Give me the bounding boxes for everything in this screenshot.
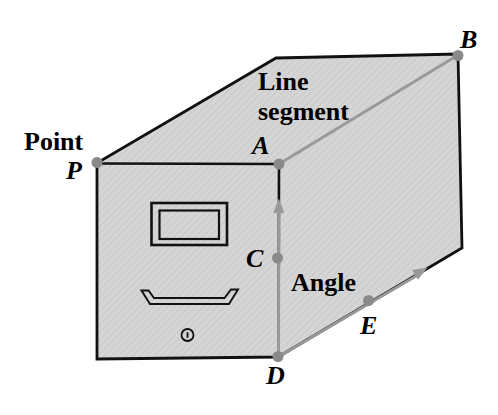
cabinet-diagram (0, 0, 498, 415)
point-dot-c (272, 253, 283, 264)
front-top-edge (97, 164, 279, 165)
segment-caption-line2: segment (258, 97, 349, 127)
point-dot-e (363, 295, 374, 306)
point-label-p: P (66, 156, 82, 186)
point-label-b: B (460, 25, 477, 55)
diagram-canvas: Point P Line segment A B C Angle E D (0, 0, 498, 415)
point-dot-a (274, 159, 285, 170)
point-label-c: C (246, 244, 263, 274)
point-caption: Point (24, 127, 83, 157)
point-label-d: D (266, 361, 285, 391)
point-label-a: A (252, 131, 269, 161)
point-label-e: E (360, 311, 377, 341)
segment-caption-line1: Line (258, 67, 309, 97)
angle-caption: Angle (291, 268, 356, 298)
point-dot-p (92, 157, 103, 168)
